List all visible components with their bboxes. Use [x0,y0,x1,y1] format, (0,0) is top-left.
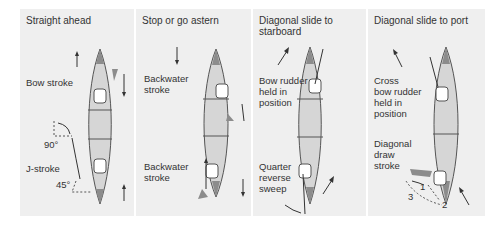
panel-diagonal-slide-port: Diagonal slide to port Cross bow rudder … [368,9,485,216]
quarter-reverse-sweep-label: Quarter reverse sweep [259,161,291,194]
j-stroke-label: J-stroke [26,163,60,174]
step-3-label: 3 [408,191,413,202]
canoe-diagram [20,9,134,216]
arrow-down-icon [242,104,244,121]
step-2-label: 2 [442,199,447,210]
panel-diagonal-slide-starboard: Diagonal slide to starboard Bow rudder h… [253,9,366,216]
arrow-up-left-icon [461,191,469,205]
arrow-up-right-icon [323,180,332,194]
angle-45-label: 45° [56,179,70,190]
panel-stop-or-go-astern: Stop or go astern Backwater stroke Backw… [136,9,251,216]
bow-backwater-label: Backwater stroke [144,73,188,95]
step-1-label: 1 [420,181,425,192]
arrow-up-left-icon [395,53,402,67]
diagonal-draw-stroke-label: Diagonal draw stroke [374,138,412,171]
bow-rudder-label: Bow rudder held in position [259,75,308,108]
panel-straight-ahead: Straight ahead Bow stroke 90° J-stroke 4… [20,9,134,216]
bow-stroke-label: Bow stroke [26,77,73,88]
cross-bow-rudder-label: Cross bow rudder held in position [374,75,422,119]
arrow-up-right-icon [278,51,287,65]
canoe-diagram [136,9,251,216]
stern-backwater-label: Backwater stroke [144,161,188,183]
angle-90-label: 90° [44,139,58,150]
